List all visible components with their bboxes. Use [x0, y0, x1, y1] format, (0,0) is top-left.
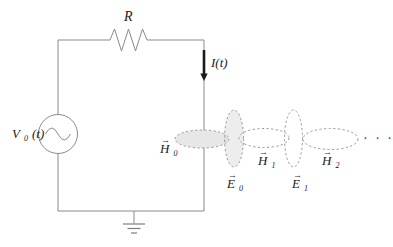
field-label-E1: → E 1 [291, 170, 308, 193]
svg-text:H 2: H 2 [321, 151, 339, 170]
wire-top-left [58, 40, 110, 115]
circuit-field-diagram: R I(t) V 0 (t) → H 0 → E 0 → H 1 [0, 0, 393, 247]
wire-top-right [147, 40, 204, 211]
ground-icon [123, 211, 145, 233]
field-label-H1: → H 1 [257, 147, 275, 170]
sine-icon [46, 128, 71, 140]
current-arrow-icon [200, 50, 207, 81]
electric-field-loop-E0 [225, 110, 244, 167]
field-label-E0: → E 0 [226, 170, 243, 193]
magnetic-field-loop-H0 [175, 130, 229, 148]
svg-text:E 0: E 0 [226, 174, 243, 193]
continuation-dots: · · · [363, 131, 393, 146]
circuit-wires [58, 40, 204, 211]
current-label: I(t) [210, 55, 228, 70]
field-label-H2: → H 2 [321, 147, 339, 170]
svg-text:E 1: E 1 [291, 174, 308, 193]
electric-field-loop-E1 [285, 110, 303, 167]
voltage-source-symbol [39, 115, 78, 154]
resistor-symbol [110, 29, 147, 51]
magnetic-field-loop-H1 [239, 129, 289, 148]
circuit-field-figure: R I(t) V 0 (t) → H 0 → E 0 → H 1 [0, 0, 393, 247]
svg-text:H 1: H 1 [257, 151, 275, 170]
svg-text:H 0: H 0 [159, 139, 177, 158]
source-voltage-label: V 0 (t) [12, 124, 44, 144]
wire-bottom [58, 154, 204, 212]
resistor-label: R [123, 9, 133, 24]
